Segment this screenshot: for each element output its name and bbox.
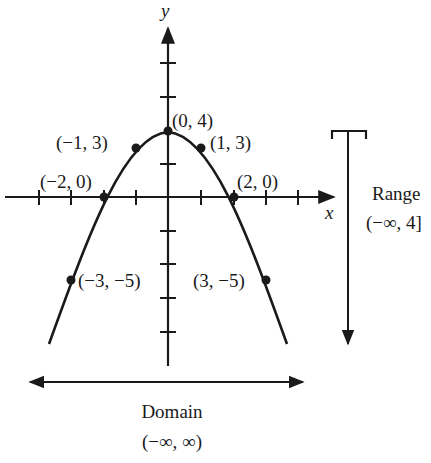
y-axis-label: y — [159, 0, 170, 21]
label-point-neg1-3: (−1, 3) — [56, 132, 108, 154]
label-point-neg3-neg5: (−3, −5) — [78, 270, 141, 292]
domain-indicator: Domain (−∞, ∞) — [30, 382, 303, 453]
range-title: Range — [372, 183, 421, 204]
point-neg3-neg5 — [67, 276, 76, 285]
domain-title: Domain — [141, 401, 203, 422]
label-point-3-neg5: (3, −5) — [193, 270, 245, 292]
point-2-0 — [230, 193, 239, 202]
parabola-figure: x y (−3, −5) (−2, 0) (−1, 3) (0, 4) (1, … — [0, 0, 431, 463]
point-1-3 — [197, 144, 206, 153]
label-point-2-0: (2, 0) — [237, 171, 278, 193]
x-axis: x — [5, 190, 334, 223]
point-neg1-3 — [132, 144, 141, 153]
point-neg2-0 — [100, 193, 109, 202]
domain-interval: (−∞, ∞) — [142, 431, 202, 453]
y-axis: y — [159, 0, 176, 366]
x-axis-label: x — [324, 202, 334, 223]
range-interval: (−∞, 4] — [366, 212, 422, 234]
label-point-1-3: (1, 3) — [210, 132, 251, 154]
range-indicator: Range (−∞, 4] — [332, 131, 422, 344]
point-3-neg5 — [262, 276, 271, 285]
label-point-neg2-0: (−2, 0) — [40, 171, 92, 193]
label-point-0-4: (0, 4) — [172, 110, 213, 132]
